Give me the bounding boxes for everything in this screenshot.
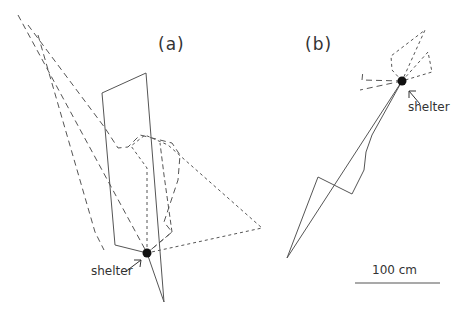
panel-b-long-dash-path-1 xyxy=(362,70,402,81)
panel-b-label: (b) xyxy=(305,34,332,54)
panel-b-paths xyxy=(287,30,432,258)
panel-b-solid-path xyxy=(287,81,402,258)
panel-a-label: (a) xyxy=(158,34,185,54)
panel-b-shelter-label: shelter xyxy=(408,100,450,114)
panel-a-shelter-marker xyxy=(143,249,152,258)
panel-b-shelter-marker xyxy=(398,77,407,86)
panel-a-long-dash-path-1 xyxy=(18,15,147,253)
panel-b-short-dash-path-1 xyxy=(391,30,425,81)
panel-a-long-dash-path-3 xyxy=(38,35,104,250)
panel-a-shelter-label: shelter xyxy=(91,264,133,278)
panel-a-paths xyxy=(18,15,262,302)
panel-a-short-dash-path xyxy=(131,135,262,253)
panel-b-short-dash-path-2 xyxy=(402,52,432,81)
panel-a-medium-dash-path xyxy=(147,143,172,253)
scale-bar-label: 100 cm xyxy=(372,263,417,277)
panel-b-long-dash-path-2 xyxy=(360,81,402,90)
